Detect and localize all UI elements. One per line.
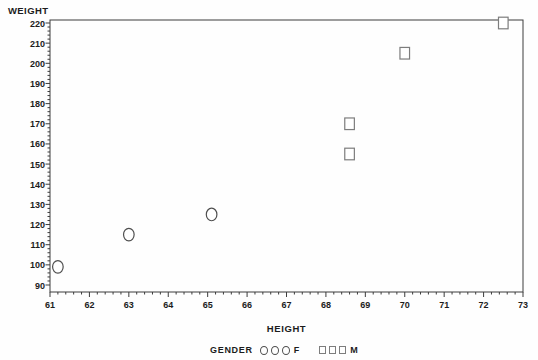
x-tick-label: 65	[203, 300, 213, 310]
data-point-m	[345, 118, 355, 130]
square-marker-icon	[329, 346, 336, 354]
y-tick-label: 120	[30, 220, 45, 230]
plot-area: 6162636465666768697071727390100110120130…	[0, 0, 538, 342]
y-tick-label: 180	[30, 99, 45, 109]
x-axis-title: HEIGHT	[50, 323, 523, 334]
data-point-f	[206, 208, 217, 221]
data-point-f	[124, 228, 135, 241]
y-tick-label: 170	[30, 119, 45, 129]
x-tick-label: 70	[400, 300, 410, 310]
y-tick-label: 110	[30, 240, 45, 250]
scatter-chart: WEIGHT 616263646566676869707172739010011…	[0, 0, 538, 360]
y-tick-label: 160	[30, 139, 45, 149]
y-tick-label: 100	[30, 260, 45, 270]
x-tick-label: 64	[163, 300, 173, 310]
y-tick-label: 90	[35, 281, 45, 291]
legend-entry-m: M	[319, 345, 358, 355]
y-tick-label: 220	[30, 19, 45, 29]
square-marker-icon	[319, 346, 326, 354]
x-tick-label: 66	[242, 300, 252, 310]
data-point-f	[53, 261, 64, 274]
circle-marker-icon	[282, 346, 290, 355]
legend-entry-f: F	[260, 345, 300, 355]
y-tick-label: 200	[30, 59, 45, 69]
x-tick-label: 69	[360, 300, 370, 310]
y-tick-label: 150	[30, 160, 45, 170]
circle-marker-icon	[260, 346, 268, 355]
data-point-m	[498, 17, 508, 29]
legend-title: GENDER	[210, 345, 253, 355]
y-tick-label: 130	[30, 200, 45, 210]
legend-entry-label: F	[294, 345, 300, 355]
data-point-m	[345, 148, 355, 160]
y-tick-label: 190	[30, 79, 45, 89]
legend: GENDER FM	[210, 345, 358, 355]
x-tick-label: 71	[439, 300, 449, 310]
square-marker-icon	[339, 346, 346, 354]
y-tick-label: 210	[30, 39, 45, 49]
legend-entry-label: M	[350, 345, 358, 355]
legend-entries: FM	[253, 345, 358, 355]
plot-frame	[50, 20, 523, 292]
x-tick-label: 72	[479, 300, 489, 310]
x-tick-label: 73	[518, 300, 528, 310]
x-tick-label: 67	[281, 300, 291, 310]
circle-marker-icon	[271, 346, 279, 355]
y-tick-label: 140	[30, 180, 45, 190]
x-tick-label: 68	[321, 300, 331, 310]
x-tick-label: 62	[84, 300, 94, 310]
x-tick-label: 63	[124, 300, 134, 310]
data-point-m	[400, 47, 410, 59]
x-tick-label: 61	[45, 300, 55, 310]
